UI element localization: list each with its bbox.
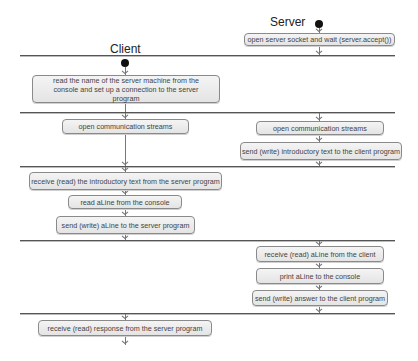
- server-lane-title: Server: [270, 15, 305, 29]
- client-lane-title: Client: [110, 42, 141, 56]
- server-open-streams-activity: open communication streams: [256, 121, 384, 135]
- client-flow-line: [125, 103, 126, 112]
- client-read-line-activity: read aLine from the console: [68, 195, 182, 209]
- client-receive-intro-activity: receive (read) the introductory text fro…: [29, 172, 222, 190]
- client-flow-line: [125, 134, 126, 166]
- sync-bar-5: [20, 313, 395, 315]
- sync-bar-1: [20, 55, 395, 57]
- client-connect-activity: read the name of the server machine from…: [32, 75, 220, 103]
- client-receive-response-activity: receive (read) response from the server …: [38, 320, 212, 336]
- server-open-socket-activity: open server socket and wait (server.acce…: [244, 33, 395, 46]
- sync-bar-4: [20, 240, 395, 242]
- client-start-node: [121, 59, 129, 67]
- server-send-intro-activity: send (write) introductory text to the cl…: [240, 142, 402, 160]
- server-send-answer-activity: send (write) answer to the client progra…: [252, 290, 388, 306]
- server-start-node: [315, 20, 323, 28]
- server-receive-line-activity: receive (read) aLine from the client: [256, 246, 384, 262]
- sync-bar-2: [20, 112, 395, 114]
- client-open-streams-activity: open communication streams: [62, 119, 189, 134]
- server-print-line-activity: print aLine to the console: [256, 268, 384, 284]
- sync-bar-3: [20, 166, 395, 168]
- client-send-line-activity: send (write) aLine to the server program: [56, 216, 195, 234]
